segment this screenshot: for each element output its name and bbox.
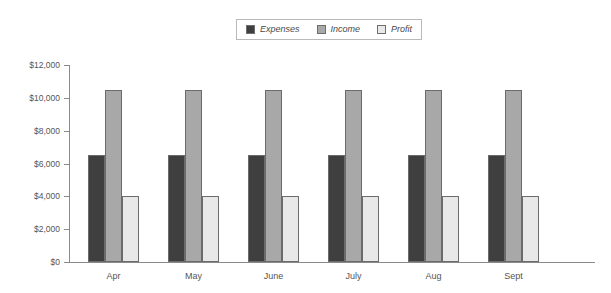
x-axis-tick-label: July: [328, 272, 379, 281]
bar-group-bars: [168, 65, 219, 262]
legend-swatch-expenses: [246, 25, 255, 34]
bar-expenses[interactable]: [328, 155, 345, 262]
legend-entry[interactable]: Profit: [377, 25, 412, 34]
y-axis-tick-mark: [64, 98, 69, 99]
x-axis-tick-label: June: [248, 272, 299, 281]
bar-group: June: [248, 65, 299, 262]
x-axis-line: [69, 262, 595, 263]
bar-profit[interactable]: [362, 196, 379, 262]
bar-income[interactable]: [425, 90, 442, 262]
y-axis-tick-label: $10,000: [29, 94, 60, 103]
bar-group: Aug: [408, 65, 459, 262]
bar-expenses[interactable]: [488, 155, 505, 262]
bar-expenses[interactable]: [168, 155, 185, 262]
legend-swatch-income: [317, 25, 326, 34]
legend-label: Profit: [391, 25, 412, 34]
bar-income[interactable]: [505, 90, 522, 262]
y-axis-tick-label: $2,000: [34, 225, 60, 234]
bar-profit[interactable]: [122, 196, 139, 262]
y-axis-line: [69, 65, 70, 262]
bar-income[interactable]: [105, 90, 122, 262]
y-axis-tick-label: $4,000: [34, 192, 60, 201]
legend-label: Expenses: [260, 25, 300, 34]
x-axis-tick-label: Sept: [488, 272, 539, 281]
y-axis-tick-mark: [64, 262, 69, 263]
bar-group: Sept: [488, 65, 539, 262]
bar-income[interactable]: [265, 90, 282, 262]
bar-income[interactable]: [345, 90, 362, 262]
x-axis-tick-label: Aug: [408, 272, 459, 281]
bar-group: July: [328, 65, 379, 262]
bar-group-bars: [248, 65, 299, 262]
chart-plot-area: $0$2,000$4,000$6,000$8,000$10,000$12,000…: [69, 65, 595, 262]
bar-group-bars: [488, 65, 539, 262]
bar-expenses[interactable]: [248, 155, 265, 262]
y-axis-tick-label: $8,000: [34, 126, 60, 135]
legend-entry[interactable]: Expenses: [246, 25, 300, 34]
legend-swatch-profit: [377, 25, 386, 34]
y-axis-tick-mark: [64, 131, 69, 132]
x-axis-tick-label: May: [168, 272, 219, 281]
y-axis-tick-label: $12,000: [29, 61, 60, 70]
y-axis-tick-label: $6,000: [34, 159, 60, 168]
bar-income[interactable]: [185, 90, 202, 262]
bar-expenses[interactable]: [408, 155, 425, 262]
legend-label: Income: [331, 25, 361, 34]
bar-expenses[interactable]: [88, 155, 105, 262]
y-axis-tick-label: $0: [51, 258, 60, 267]
bar-group: Apr: [88, 65, 139, 262]
bar-profit[interactable]: [522, 196, 539, 262]
y-axis-tick-mark: [64, 229, 69, 230]
bar-profit[interactable]: [282, 196, 299, 262]
bar-group-bars: [328, 65, 379, 262]
y-axis-tick-mark: [64, 65, 69, 66]
y-axis-tick-mark: [64, 196, 69, 197]
chart-legend: ExpensesIncomeProfit: [236, 19, 422, 40]
bar-profit[interactable]: [202, 196, 219, 262]
legend-entry[interactable]: Income: [317, 25, 361, 34]
x-axis-tick-label: Apr: [88, 272, 139, 281]
bar-group: May: [168, 65, 219, 262]
bar-group-bars: [88, 65, 139, 262]
bar-group-bars: [408, 65, 459, 262]
y-axis-tick-mark: [64, 164, 69, 165]
bar-profit[interactable]: [442, 196, 459, 262]
